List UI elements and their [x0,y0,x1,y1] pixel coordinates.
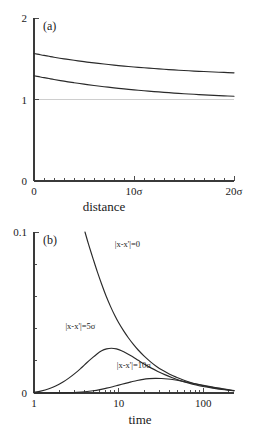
panel-label: (a) [43,19,56,33]
panel-b-plot: 11010000.1|x-x'|=0|x-x'|=5σ|x-x'|=10σ(b)… [0,216,253,438]
y-tick-label: 2 [22,12,28,24]
x-tick-label: 0 [31,185,37,197]
data-curve [34,378,234,393]
x-tick-label: 10σ [126,185,143,197]
x-tick-label: 10 [113,397,125,409]
curve-annotation: |x-x'|=5σ [65,321,95,331]
x-tick-label: 20σ [226,185,243,197]
panel-label: (b) [43,233,57,247]
x-axis-title: distance [83,199,126,214]
data-curve [34,76,234,97]
y-tick-label: 0 [22,175,28,187]
y-tick-label: 0 [22,387,28,399]
chart-panel-a: 010σ20σ012(a)distance [0,0,253,216]
data-curve [34,53,234,72]
y-tick-label: 0.1 [13,226,27,238]
figure-container: 010σ20σ012(a)distance 11010000.1|x-x'|=0… [0,0,253,438]
x-tick-label: 100 [195,397,212,409]
y-tick-label: 1 [22,94,28,106]
panel-a-plot: 010σ20σ012(a)distance [0,0,253,216]
curve-annotation: |x-x'|=10σ [117,360,152,370]
chart-panel-b: 11010000.1|x-x'|=0|x-x'|=5σ|x-x'|=10σ(b)… [0,216,253,438]
x-tick-label: 1 [31,397,37,409]
x-axis-title: time [128,412,151,427]
curve-annotation: |x-x'|=0 [115,239,140,249]
data-curve [85,232,234,391]
